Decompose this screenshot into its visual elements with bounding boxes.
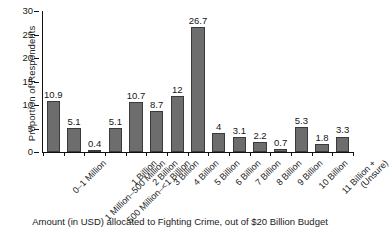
bar-value-label: 10.7 — [126, 90, 147, 101]
y-tick-mark — [34, 152, 39, 153]
bar-value-label: 1.8 — [312, 132, 333, 143]
bar — [233, 137, 247, 152]
bar — [47, 101, 61, 152]
y-tick-label: 0 — [28, 146, 33, 157]
y-tick: 10 — [0, 105, 42, 106]
x-tick-mark — [270, 152, 271, 156]
x-axis-line — [42, 152, 353, 153]
x-tick-mark — [64, 152, 65, 156]
y-tick: 15 — [0, 82, 42, 83]
y-tick-label: 25 — [22, 29, 33, 40]
y-tick: 25 — [0, 35, 42, 36]
bar-value-label: 0.7 — [270, 137, 291, 148]
bar-value-label: 2.2 — [250, 130, 271, 141]
x-tick-mark — [126, 152, 127, 156]
x-tick-mark — [43, 152, 44, 156]
y-tick: 30 — [0, 11, 42, 12]
y-tick: 20 — [0, 58, 42, 59]
y-tick-label: 20 — [22, 52, 33, 63]
bar-value-label: 5.1 — [64, 116, 85, 127]
bar — [315, 144, 329, 152]
y-tick-label: 30 — [22, 5, 33, 16]
x-category-label: 0–1 Million — [71, 158, 108, 195]
y-tick-label: 15 — [22, 76, 33, 87]
x-tick-mark — [250, 152, 251, 156]
plot-area: 10.95.10.45.110.78.71226.743.12.20.75.31… — [43, 11, 353, 152]
bar-value-label: 12 — [167, 84, 188, 95]
bar-value-label: 8.7 — [146, 99, 167, 110]
bar — [274, 149, 288, 152]
bar — [88, 150, 102, 152]
x-tick-mark — [146, 152, 147, 156]
bar — [109, 128, 123, 152]
x-tick-mark — [84, 152, 85, 156]
bar-value-label: 5.3 — [291, 115, 312, 126]
bar — [253, 142, 267, 152]
bar — [129, 102, 143, 152]
bar-value-label: 3.3 — [332, 124, 353, 135]
y-tick-mark — [34, 82, 39, 83]
bar — [150, 111, 164, 152]
y-tick-mark — [34, 11, 39, 12]
y-tick-mark — [34, 129, 39, 130]
y-tick-mark — [34, 105, 39, 106]
y-tick-label: 5 — [28, 123, 33, 134]
x-tick-mark — [229, 152, 230, 156]
bar-value-label: 26.7 — [188, 15, 209, 26]
bar — [336, 137, 350, 153]
y-tick-mark — [34, 35, 39, 36]
x-axis-title: Amount (in USD) allocated to Fighting Cr… — [0, 216, 360, 227]
x-tick-mark — [332, 152, 333, 156]
x-tick-mark — [353, 152, 354, 156]
x-tick-mark — [167, 152, 168, 156]
bar-value-label: 10.9 — [43, 89, 64, 100]
y-tick-label: 10 — [22, 99, 33, 110]
bar — [171, 96, 185, 152]
bar — [67, 128, 81, 152]
y-tick: 5 — [0, 129, 42, 130]
bar-value-label: 3.1 — [229, 125, 250, 136]
x-tick-mark — [208, 152, 209, 156]
x-tick-mark — [312, 152, 313, 156]
y-tick: 0 — [0, 152, 42, 153]
y-tick-mark — [34, 58, 39, 59]
bar — [295, 127, 309, 152]
x-tick-mark — [105, 152, 106, 156]
bar — [191, 27, 205, 152]
bar-value-label: 5.1 — [105, 116, 126, 127]
x-tick-mark — [291, 152, 292, 156]
bar-value-label: 4 — [208, 121, 229, 132]
x-tick-mark — [188, 152, 189, 156]
bar — [212, 133, 226, 152]
bar-value-label: 0.4 — [84, 138, 105, 149]
